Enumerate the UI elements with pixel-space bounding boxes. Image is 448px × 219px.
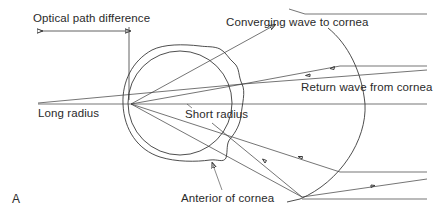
label-anterior-cornea: Anterior of cornea — [181, 193, 274, 205]
label-optical-path-difference: Optical path difference — [33, 13, 150, 25]
eye-globe — [123, 45, 244, 161]
bottom-ray-lines — [302, 172, 427, 199]
label-short-radius: Short radius — [185, 109, 248, 121]
converging-wavefront — [287, 28, 365, 202]
outer-cornea-surface — [123, 45, 244, 161]
panel-label: A — [12, 193, 20, 205]
inner-circle — [128, 51, 232, 155]
label-converging-wave: Converging wave to cornea — [226, 17, 369, 29]
top-incoming-line — [289, 9, 427, 14]
label-return-wave: Return wave from cornea — [301, 82, 432, 94]
label-long-radius: Long radius — [38, 108, 99, 120]
cornea-wavefront-diagram: Optical path difference Converging wave … — [0, 0, 448, 219]
optical-path-difference-dimension — [40, 27, 129, 100]
